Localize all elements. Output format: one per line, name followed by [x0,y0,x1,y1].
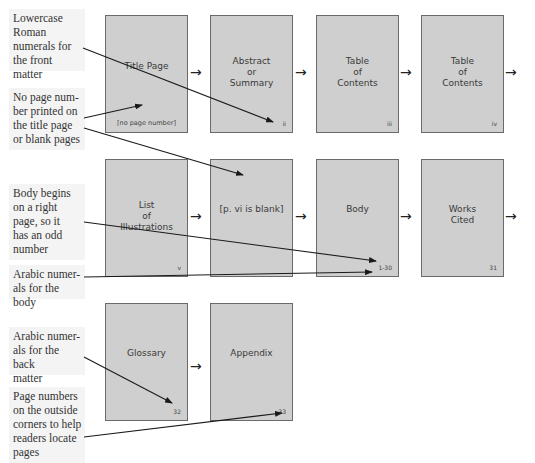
leader-arabic-body [84,272,372,277]
leader-arabic-back [84,357,172,403]
leader-front-matter [83,48,273,122]
leader-outside-corners [84,413,282,437]
leader-blank-page [84,128,243,175]
leader-body-odd [84,222,376,261]
leader-title-page [84,105,142,118]
